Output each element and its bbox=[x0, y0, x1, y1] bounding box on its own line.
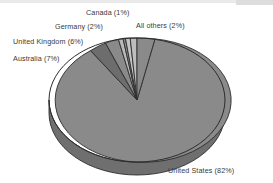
label-united-kingdom: United Kingdom (6%) bbox=[13, 37, 83, 46]
label-australia: Australia (7%) bbox=[13, 54, 60, 63]
label-canada: Canada (1%) bbox=[86, 8, 129, 17]
pie-chart-figure: Canada (1%) Germany (2%) United Kingdom … bbox=[0, 0, 273, 183]
label-united-states: United States (82%) bbox=[168, 166, 234, 175]
label-all-others: All others (2%) bbox=[136, 21, 185, 30]
label-germany: Germany (2%) bbox=[55, 22, 103, 31]
pie-slices bbox=[49, 38, 231, 162]
